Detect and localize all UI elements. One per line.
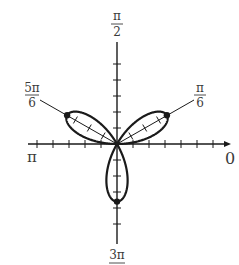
tick-mark <box>143 125 147 132</box>
tick-mark <box>129 133 133 140</box>
petal-tip-dot <box>64 112 70 118</box>
ray-pi-over-6 <box>117 100 194 144</box>
ray-5pi-over-6 <box>40 100 117 144</box>
tick-mark <box>101 133 105 140</box>
label-pi-over-6-numerator: π <box>196 81 204 95</box>
label-pi-over-6-denominator: 6 <box>196 96 204 110</box>
petal-tip-dot <box>164 112 170 118</box>
label-5pi-over-6-denominator: 6 <box>28 96 36 110</box>
axis-labels: π 2 π 0 3π π 6 5π 6 <box>24 9 235 263</box>
axis-arrow-icon <box>224 141 231 147</box>
label-5pi-over-6-numerator: 5π <box>24 81 40 95</box>
label-zero: 0 <box>225 149 235 168</box>
label-pi-over-2-denominator: 2 <box>113 25 121 39</box>
label-pi-over-2-numerator: π <box>113 9 121 23</box>
polar-rose-plot: π 2 π 0 3π π 6 5π 6 <box>0 0 239 265</box>
tick-mark <box>87 125 91 132</box>
petal-tip-dot <box>114 198 120 204</box>
label-3pi-over-2-numerator: 3π <box>109 248 125 262</box>
label-pi: π <box>27 148 37 166</box>
